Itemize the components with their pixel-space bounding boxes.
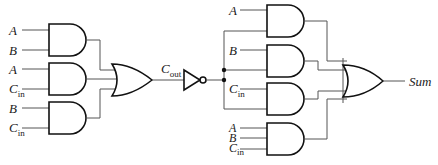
label-left-cin2: Cin bbox=[9, 121, 25, 138]
and-gate-abcin bbox=[267, 123, 304, 155]
and-gate-cin-ncout bbox=[267, 83, 304, 115]
label-cout: Cout bbox=[161, 62, 181, 79]
sum-or-input-wires bbox=[304, 21, 349, 139]
inverter-bubble bbox=[200, 77, 206, 83]
and-gate-bcin bbox=[49, 102, 86, 134]
label-right-b1: B bbox=[229, 44, 237, 57]
label-left-cin1: Cin bbox=[9, 82, 25, 99]
and-gate-ab bbox=[49, 24, 86, 56]
and-gate-a-ncout bbox=[267, 5, 304, 37]
or-gate-sum bbox=[343, 65, 383, 97]
label-left-b2: B bbox=[9, 102, 17, 115]
carry-or-input-wires bbox=[86, 40, 118, 118]
label-left-a1: A bbox=[9, 24, 17, 37]
not-gate bbox=[184, 70, 200, 90]
label-left-a2: A bbox=[9, 63, 17, 76]
left-input-wires bbox=[22, 30, 49, 128]
label-left-b1: B bbox=[9, 44, 17, 57]
full-adder-diagram: A B A Cin B Cin Cout A B Cin A B Cin Sum bbox=[0, 0, 438, 165]
label-right-cin1: Cin bbox=[229, 82, 245, 99]
label-sum: Sum bbox=[409, 75, 431, 88]
and-gate-acin bbox=[49, 63, 86, 95]
or-gate-carry bbox=[112, 64, 152, 96]
label-right-a1: A bbox=[229, 4, 237, 17]
junction-dot bbox=[222, 78, 226, 82]
label-right-cin2: Cin bbox=[229, 142, 244, 157]
circuit-wires-and-gates bbox=[0, 0, 438, 165]
and-gate-b-ncout bbox=[267, 45, 304, 77]
junction-dot bbox=[222, 68, 226, 72]
